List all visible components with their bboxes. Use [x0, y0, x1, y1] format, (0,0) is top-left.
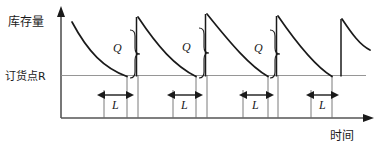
x-axis-arrowhead: [363, 114, 374, 122]
lead-time-label-2: L: [181, 98, 188, 113]
y-axis-arrowhead: [57, 6, 65, 17]
x-axis-label: 时间: [330, 126, 354, 143]
reorder-point-label: 订货点R: [5, 67, 46, 83]
diagram-canvas: [0, 0, 377, 148]
inventory-model-diagram: 库存量 订货点R 时间 Q Q Q L L L L: [0, 0, 377, 148]
lead-time-label-1: L: [112, 98, 119, 113]
order-quantity-brace-2: [199, 28, 209, 78]
order-quantity-label-2: Q: [182, 40, 191, 55]
inventory-curve-cycle-4: [342, 19, 370, 50]
order-quantity-brace-3: [270, 30, 280, 78]
order-quantity-label-3: Q: [254, 41, 263, 56]
inventory-curve-cycle-3: [278, 16, 332, 77]
lead-time-label-4: L: [319, 98, 326, 113]
lead-time-label-3: L: [252, 98, 259, 113]
y-axis-label: 库存量: [8, 12, 44, 29]
order-quantity-label-1: Q: [113, 41, 122, 56]
order-quantity-brace-1: [130, 30, 140, 78]
